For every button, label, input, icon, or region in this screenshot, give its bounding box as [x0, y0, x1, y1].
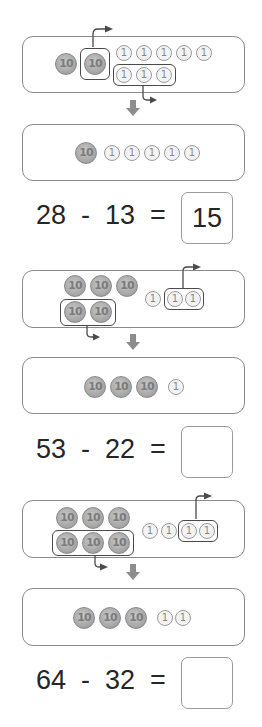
- one-coin: 1: [104, 145, 120, 161]
- down-arrow-icon: [126, 564, 140, 581]
- one-coin: 1: [144, 145, 160, 161]
- ten-coin: 10: [110, 376, 132, 398]
- one-coin: 1: [175, 610, 191, 626]
- take-away-arrow-icon: [0, 480, 262, 600]
- one-coin: 1: [157, 610, 173, 626]
- after-panel-1: 10 1 1 1 1 1: [22, 124, 245, 181]
- down-arrow-icon: [126, 100, 140, 117]
- equation-2: 53 - 22 =: [36, 434, 166, 465]
- answer-box-2[interactable]: [181, 426, 233, 478]
- one-coin: 1: [184, 145, 200, 161]
- down-arrow-icon: [126, 334, 140, 351]
- after-panel-2: 10 10 10 1: [22, 357, 245, 414]
- ten-coin: 10: [99, 607, 121, 629]
- ten-coin: 10: [75, 142, 97, 164]
- ten-coin: 10: [136, 376, 158, 398]
- one-coin: 1: [124, 145, 140, 161]
- one-coin: 1: [168, 379, 184, 395]
- one-coin: 1: [164, 145, 180, 161]
- ten-coin: 10: [84, 376, 106, 398]
- equation-3: 64 - 32 =: [36, 665, 166, 696]
- answer-box-3[interactable]: [181, 657, 233, 709]
- ten-coin: 10: [125, 607, 147, 629]
- equation-1: 28 - 13 =: [36, 200, 166, 231]
- answer-box-1[interactable]: 15: [181, 192, 233, 244]
- ten-coin: 10: [73, 607, 95, 629]
- after-panel-3: 10 10 10 1 1: [22, 588, 245, 646]
